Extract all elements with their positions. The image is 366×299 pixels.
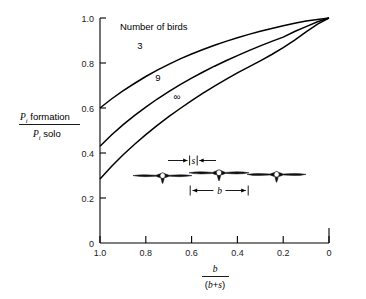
x-axis-title-numerator: b bbox=[213, 264, 218, 274]
x-tick-label-0.2: 0.2 bbox=[277, 248, 290, 258]
legend-title: Number of birds bbox=[120, 21, 188, 32]
y-axis-numerator-word: formation bbox=[30, 111, 70, 122]
x-tick-label-0.4: 0.4 bbox=[231, 248, 244, 258]
y-tick-label-1.0: 1.0 bbox=[81, 14, 94, 24]
curve-label-9: 9 bbox=[155, 72, 160, 83]
chart-svg: 1.0 0.8 0.6 0.4 0.2 0 1.0 0.8 0.6 0.4 0.… bbox=[0, 0, 366, 299]
y-tick-label-0.2: 0.2 bbox=[81, 194, 94, 204]
y-axis-denominator-word: solo bbox=[43, 128, 60, 139]
x-tick-label-0.8: 0.8 bbox=[140, 248, 153, 258]
chart-background bbox=[0, 0, 366, 299]
figure-container: 1.0 0.8 0.6 0.4 0.2 0 1.0 0.8 0.6 0.4 0.… bbox=[0, 0, 366, 299]
x-tick-label-0.6: 0.6 bbox=[185, 248, 198, 258]
y-tick-label-0: 0 bbox=[89, 239, 94, 249]
curve-label-3: 3 bbox=[137, 40, 142, 51]
inset-dimension-b-label: b bbox=[217, 186, 222, 196]
y-tick-label-0.6: 0.6 bbox=[81, 104, 94, 114]
x-axis-denominator-close: ) bbox=[222, 279, 225, 290]
y-axis-title-denominator: Pi solo bbox=[32, 128, 61, 141]
y-tick-label-0.4: 0.4 bbox=[81, 149, 94, 159]
x-tick-label-1.0: 1.0 bbox=[94, 248, 107, 258]
x-tick-label-0: 0 bbox=[326, 248, 331, 258]
curve-label-infinity: ∞ bbox=[174, 91, 181, 102]
x-axis-title-denominator: (b+s) bbox=[205, 279, 225, 290]
inset-dimension-s-label: s bbox=[192, 156, 196, 166]
y-tick-label-0.8: 0.8 bbox=[81, 59, 94, 69]
